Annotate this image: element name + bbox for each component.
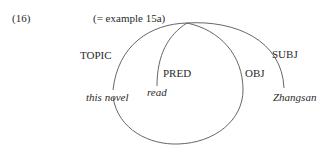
topic-arc: [113, 23, 187, 90]
pred-label: PRED: [163, 67, 191, 79]
obj-arc: [187, 23, 243, 90]
subj-arc: [187, 23, 284, 88]
word-zhangsan: Zhangsan: [273, 91, 316, 103]
word-read: read: [147, 86, 167, 98]
topic-label: TOPIC: [80, 49, 112, 61]
bottom-loop: [113, 90, 243, 144]
subj-label: SUBJ: [272, 48, 298, 60]
word-this-novel: this novel: [86, 91, 128, 103]
obj-label: OBJ: [245, 67, 265, 79]
